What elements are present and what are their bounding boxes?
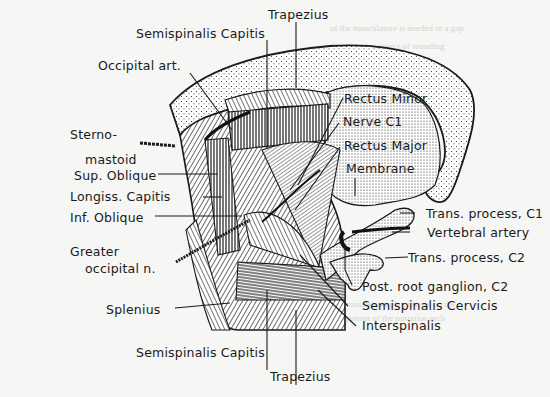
sternomastoid-probe xyxy=(140,143,176,146)
label-sternomastoid-2: mastoid xyxy=(85,153,137,167)
label-post-root-ganglion: Post. root ganglion, C2 xyxy=(362,280,508,294)
label-splenius: Splenius xyxy=(106,303,160,317)
label-semispinalis-capitis-top: Semispinalis Capitis xyxy=(136,27,265,41)
label-semispinalis-capitis-bottom: Semispinalis Capitis xyxy=(136,346,265,360)
label-rectus-major: Rectus Major xyxy=(344,139,427,153)
label-longiss-capitis: Longiss. Capitis xyxy=(70,190,171,204)
label-semispinalis-cervicis: Semispinalis Cervicis xyxy=(362,299,498,313)
label-greater-occipital-2: occipital n. xyxy=(85,262,156,276)
label-greater-occipital-1: Greater xyxy=(70,245,119,259)
label-sternomastoid-1: Sterno- xyxy=(70,128,117,142)
label-occipital-artery: Occipital art. xyxy=(98,59,181,73)
label-sup-oblique: Sup. Oblique xyxy=(74,169,156,183)
label-trans-process-c1: Trans. process, C1 xyxy=(426,207,543,221)
label-inf-oblique: Inf. Oblique xyxy=(70,211,144,225)
label-nerve-c1: Nerve C1 xyxy=(343,115,403,129)
label-trapezius-top: Trapezius xyxy=(268,8,329,22)
label-interspinalis: Interspinalis xyxy=(362,319,441,333)
label-rectus-minor: Rectus Minor xyxy=(344,92,427,106)
label-trans-process-c2: Trans. process, C2 xyxy=(408,251,525,265)
label-membrane: Membrane xyxy=(346,162,415,176)
label-trapezius-bottom: Trapezius xyxy=(270,370,331,384)
label-vertebral-artery: Vertebral artery xyxy=(427,226,529,240)
